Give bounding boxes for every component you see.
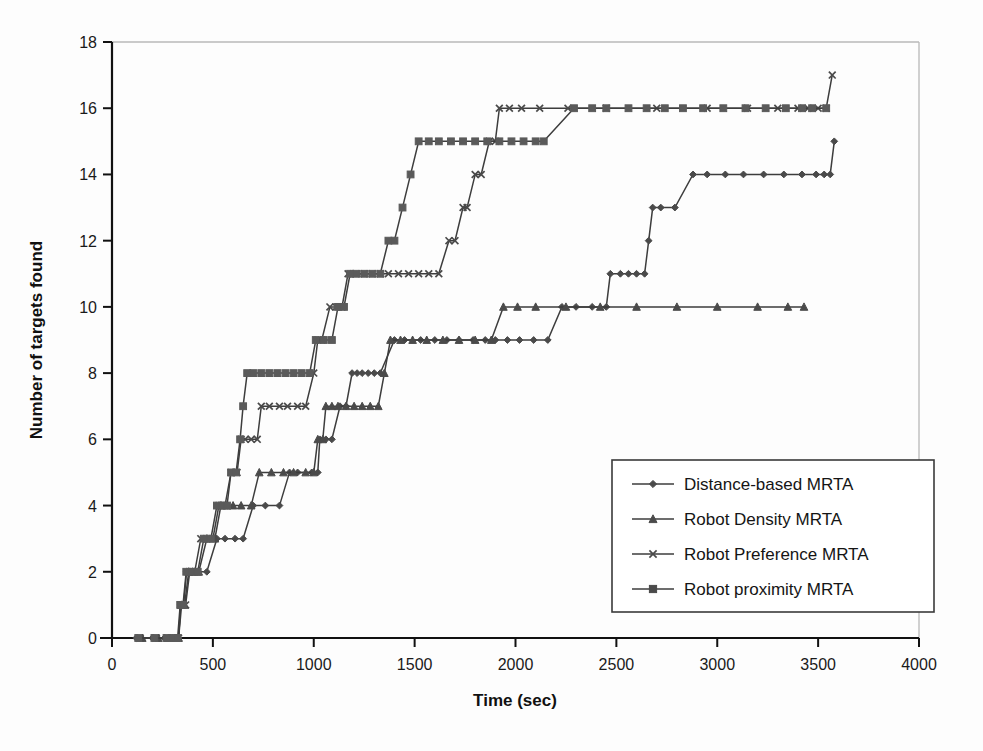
y-tick-label-12: 12 <box>79 233 97 250</box>
data-point-marker <box>391 237 398 244</box>
data-point-marker <box>762 105 769 112</box>
x-tick-label-0: 0 <box>108 656 117 673</box>
x-axis-title: Time (sec) <box>473 691 557 710</box>
x-tick-label-3000: 3000 <box>699 656 735 673</box>
data-point-marker <box>377 270 384 277</box>
data-point-marker <box>135 635 142 642</box>
data-point-marker <box>312 337 319 344</box>
y-tick-label-4: 4 <box>88 498 97 515</box>
data-point-marker <box>407 171 414 178</box>
data-point-marker <box>448 138 455 145</box>
data-point-marker <box>174 635 181 642</box>
data-point-marker <box>274 370 281 377</box>
line-chart: 024681012141618 050010001500200025003000… <box>0 0 983 751</box>
chart-legend[interactable]: Distance-based MRTARobot Density MRTARob… <box>612 460 934 612</box>
chart-figure: 024681012141618 050010001500200025003000… <box>0 0 983 751</box>
data-point-marker <box>460 138 467 145</box>
data-point-marker <box>341 303 348 310</box>
data-point-marker <box>809 105 816 112</box>
y-tick-label-6: 6 <box>88 431 97 448</box>
data-point-marker <box>540 138 547 145</box>
data-point-marker <box>484 138 491 145</box>
y-axis-title: Number of targets found <box>27 241 46 439</box>
data-point-marker <box>680 105 687 112</box>
data-point-marker <box>151 635 158 642</box>
y-tick-label-8: 8 <box>88 365 97 382</box>
data-point-marker <box>224 502 231 509</box>
data-point-marker <box>207 535 214 542</box>
legend-label: Distance-based MRTA <box>684 475 854 494</box>
data-point-marker <box>532 138 539 145</box>
data-point-marker <box>194 568 201 575</box>
legend-label: Robot Preference MRTA <box>684 545 869 564</box>
x-tick-label-500: 500 <box>200 656 227 673</box>
data-point-marker <box>282 370 289 377</box>
data-point-marker <box>823 105 830 112</box>
data-point-marker <box>240 403 247 410</box>
data-point-marker <box>589 105 596 112</box>
data-point-marker <box>496 138 503 145</box>
y-tick-label-18: 18 <box>79 34 97 51</box>
data-point-marker <box>353 270 360 277</box>
data-point-marker <box>233 469 240 476</box>
x-tick-label-1500: 1500 <box>397 656 433 673</box>
data-point-marker <box>508 138 515 145</box>
data-point-marker <box>425 138 432 145</box>
data-point-marker <box>298 370 305 377</box>
data-point-marker <box>520 138 527 145</box>
data-point-marker <box>306 370 313 377</box>
legend-label: Robot proximity MRTA <box>684 580 854 599</box>
data-point-marker <box>361 270 368 277</box>
data-point-marker <box>290 370 297 377</box>
data-point-marker <box>266 370 273 377</box>
x-tick-label-4000: 4000 <box>901 656 937 673</box>
data-point-marker <box>720 105 727 112</box>
x-tick-label-2500: 2500 <box>599 656 635 673</box>
data-point-marker <box>625 105 632 112</box>
data-point-marker <box>700 105 707 112</box>
data-point-marker <box>180 601 187 608</box>
data-point-marker <box>435 138 442 145</box>
y-tick-label-14: 14 <box>79 166 97 183</box>
data-point-marker <box>369 270 376 277</box>
x-tick-label-2000: 2000 <box>498 656 534 673</box>
data-point-marker <box>250 370 257 377</box>
data-point-marker <box>320 337 327 344</box>
legend-label: Robot Density MRTA <box>684 510 843 529</box>
x-tick-label-1000: 1000 <box>296 656 332 673</box>
y-tick-label-10: 10 <box>79 299 97 316</box>
data-point-marker <box>399 204 406 211</box>
data-point-marker <box>661 105 668 112</box>
data-point-marker <box>415 138 422 145</box>
data-point-marker <box>200 535 207 542</box>
y-tick-label-0: 0 <box>88 630 97 647</box>
data-point-marker <box>782 105 789 112</box>
data-point-marker <box>329 337 336 344</box>
data-point-marker <box>472 138 479 145</box>
data-point-marker <box>799 105 806 112</box>
y-tick-label-2: 2 <box>88 564 97 581</box>
data-point-marker <box>237 436 244 443</box>
data-point-marker <box>649 585 656 592</box>
x-tick-label-3500: 3500 <box>800 656 836 673</box>
data-point-marker <box>742 105 749 112</box>
data-point-marker <box>643 105 650 112</box>
y-tick-label-16: 16 <box>79 100 97 117</box>
data-point-marker <box>603 105 610 112</box>
data-point-marker <box>258 370 265 377</box>
data-point-marker <box>571 105 578 112</box>
